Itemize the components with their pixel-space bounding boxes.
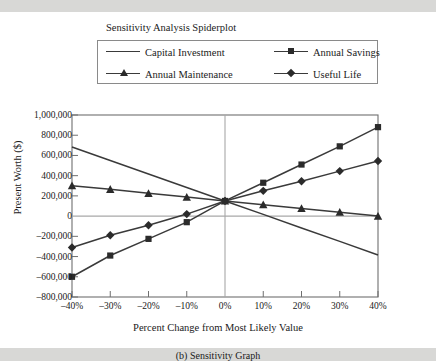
x-axis-tick-label: –40%	[61, 301, 83, 311]
y-axis-tick-label: –200,000	[36, 231, 72, 241]
x-axis-tick-label: –20%	[137, 301, 159, 311]
x-axis-tick-label: –10%	[176, 301, 198, 311]
x-axis-tick-label: 20%	[293, 301, 310, 311]
y-axis-label: Present Worth ($)	[12, 113, 23, 243]
y-axis-tick-label: 200,000	[41, 191, 72, 201]
x-axis-tick-label: 40%	[369, 301, 386, 311]
x-axis-label: Percent Change from Most Likely Value	[0, 322, 436, 333]
figure-caption: (b) Sensitivity Graph	[0, 350, 436, 361]
y-axis-tick-label: 0	[67, 211, 72, 221]
x-axis-tick-label: 10%	[255, 301, 272, 311]
y-axis-tick-label: 1,000,000	[34, 110, 72, 120]
y-axis-tick-label: 800,000	[41, 130, 72, 140]
x-axis-ticks: –40%–30%–20%–10%0%10%20%30%40%	[0, 301, 436, 317]
y-axis-tick-label: –400,000	[36, 252, 72, 262]
y-axis-tick-label: 400,000	[41, 171, 72, 181]
y-axis-tick-label: –600,000	[36, 272, 72, 282]
y-axis-tick-label: 600,000	[41, 150, 72, 160]
figure-panel: Sensitivity Analysis Spiderplot Capital …	[0, 12, 436, 348]
x-axis-tick-label: 30%	[331, 301, 348, 311]
x-axis-tick-label: –30%	[99, 301, 121, 311]
x-axis-tick-label: 0%	[219, 301, 232, 311]
